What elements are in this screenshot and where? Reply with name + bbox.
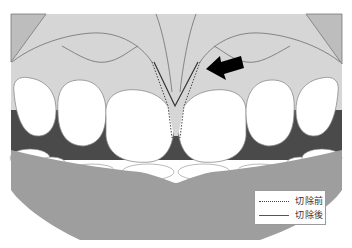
legend: 切除前 切除後 [254, 190, 326, 225]
tooth-upper-left-2 [58, 80, 106, 146]
dotted-line-swatch [259, 201, 289, 202]
legend-item-before: 切除前 [259, 194, 324, 208]
legend-item-after: 切除後 [259, 208, 324, 222]
tooth-upper-right-2 [246, 80, 294, 146]
legend-label-after: 切除後 [295, 208, 324, 222]
solid-line-swatch [259, 215, 289, 216]
legend-label-before: 切除前 [295, 194, 324, 208]
